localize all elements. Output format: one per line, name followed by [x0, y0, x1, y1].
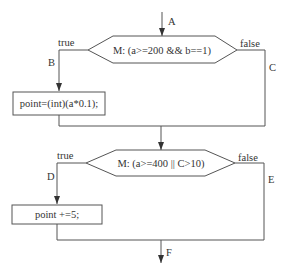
process-2-text: point +=5;: [35, 209, 79, 220]
decision-1-false-edge: [237, 50, 265, 126]
edge-label-a: A: [168, 16, 176, 27]
edge-label-f: F: [166, 247, 172, 258]
edge-label-d: D: [47, 171, 55, 182]
edge-label-e: E: [268, 174, 274, 185]
decision-2-false-label: false: [238, 152, 258, 163]
flowchart-canvas: A M: (a>=200 && b==1) true B false C poi…: [0, 0, 283, 272]
arrow-head-icon: [54, 196, 60, 204]
arrow-head-icon: [158, 255, 164, 263]
arrow-head-icon: [159, 28, 165, 36]
decision-2-text: M: (a>=400 || C>10): [117, 158, 205, 170]
decision-1-true-edge: [59, 50, 88, 91]
edge-label-c: C: [269, 62, 276, 73]
merge-1-edge: [59, 115, 265, 126]
decision-1-text: M: (a>=200 && b==1): [113, 45, 212, 57]
arrow-head-icon: [158, 142, 164, 150]
decision-1-true-label: true: [58, 37, 75, 48]
decision-2-false-edge: [235, 163, 264, 240]
process-1-text: point=(int)(a*0.1);: [20, 98, 99, 110]
decision-1-false-label: false: [240, 38, 260, 49]
decision-2-true-label: true: [57, 150, 74, 161]
decision-2-true-edge: [57, 163, 86, 204]
edge-label-b: B: [48, 57, 55, 68]
merge-2-edge: [57, 224, 264, 240]
arrow-head-icon: [56, 83, 62, 91]
